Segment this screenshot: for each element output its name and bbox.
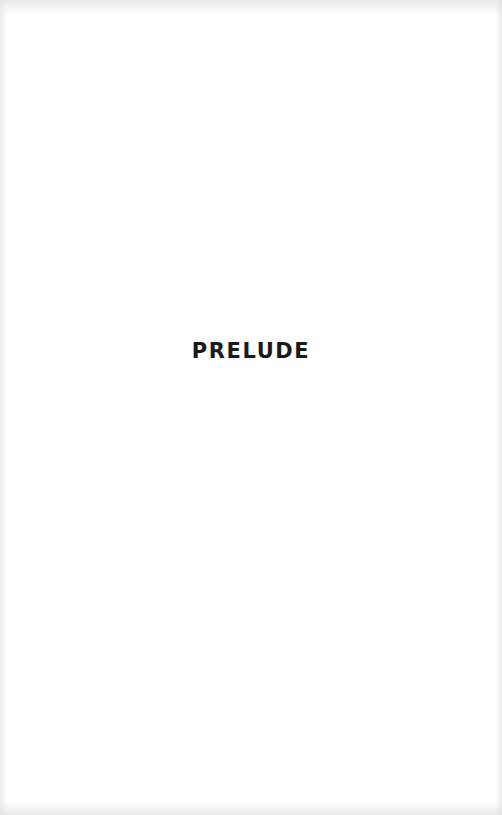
scan-edge-top bbox=[0, 0, 502, 14]
scan-edge-bottom bbox=[0, 801, 502, 815]
book-page: PRELUDE bbox=[0, 0, 502, 815]
scan-edge-left bbox=[0, 0, 7, 815]
chapter-title: PRELUDE bbox=[0, 336, 502, 366]
scan-edge-right bbox=[495, 0, 502, 815]
